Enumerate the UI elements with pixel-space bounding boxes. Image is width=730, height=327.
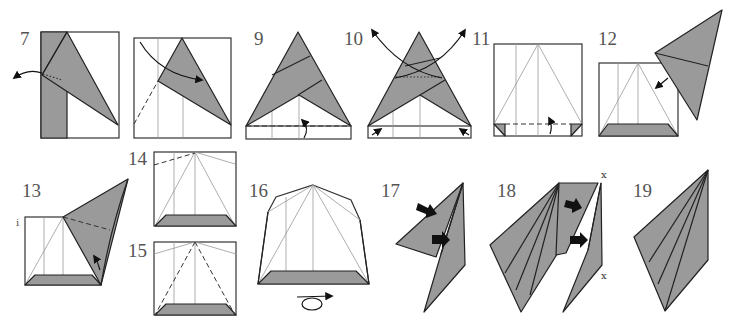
step-8-figure bbox=[134, 38, 231, 138]
turn-over-icon bbox=[302, 298, 322, 310]
step-17-figure bbox=[396, 183, 465, 312]
step-10-figure bbox=[368, 30, 471, 138]
step-19-figure bbox=[634, 170, 708, 311]
step-14-figure bbox=[154, 152, 236, 226]
origami-diagram: i bbox=[0, 0, 730, 327]
step-18-figure: x x bbox=[490, 169, 607, 312]
x-mark-bottom: x bbox=[601, 270, 607, 281]
x-mark-top: x bbox=[601, 169, 607, 180]
step-9-figure bbox=[246, 32, 351, 139]
step-11-figure bbox=[494, 44, 582, 136]
step-12-figure bbox=[599, 10, 722, 136]
step-16-figure bbox=[258, 185, 369, 310]
step-7-figure bbox=[14, 32, 119, 138]
step-13-figure: i bbox=[16, 179, 128, 285]
partial-mark: i bbox=[16, 217, 19, 228]
step-15-figure bbox=[154, 242, 236, 315]
